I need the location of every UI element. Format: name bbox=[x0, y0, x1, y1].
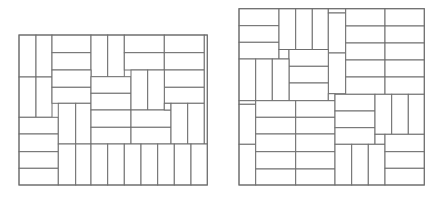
tile bbox=[58, 103, 75, 144]
tile bbox=[91, 110, 131, 127]
tile bbox=[346, 77, 385, 94]
tile bbox=[352, 144, 369, 185]
tile bbox=[392, 94, 409, 134]
tile bbox=[124, 53, 164, 70]
tile bbox=[335, 128, 375, 145]
tile bbox=[239, 101, 256, 105]
tile bbox=[52, 53, 91, 70]
tile bbox=[124, 144, 141, 185]
tile bbox=[368, 144, 385, 185]
left-tiling bbox=[19, 35, 207, 185]
tile bbox=[141, 144, 158, 185]
tile bbox=[272, 59, 289, 101]
tile bbox=[385, 152, 424, 169]
tile bbox=[124, 35, 164, 53]
tile bbox=[239, 144, 256, 185]
tiling-diagram bbox=[0, 0, 439, 198]
tile bbox=[174, 144, 191, 185]
tile bbox=[385, 134, 424, 151]
tile bbox=[58, 144, 75, 185]
tile bbox=[91, 127, 131, 144]
tile bbox=[131, 127, 171, 144]
tile bbox=[36, 35, 52, 77]
tile bbox=[279, 9, 296, 50]
tile bbox=[328, 94, 335, 101]
tile bbox=[346, 9, 385, 26]
tile bbox=[289, 50, 328, 67]
tile bbox=[328, 9, 345, 13]
tile bbox=[385, 43, 424, 60]
tile bbox=[191, 144, 207, 185]
tile bbox=[296, 101, 335, 118]
tile bbox=[91, 35, 108, 77]
tile bbox=[171, 103, 188, 144]
tile bbox=[239, 42, 279, 59]
tile bbox=[256, 117, 296, 134]
tile bbox=[256, 59, 273, 101]
tile bbox=[375, 94, 392, 134]
tile bbox=[385, 26, 424, 43]
tile bbox=[346, 26, 385, 43]
tile bbox=[36, 77, 52, 117]
tile bbox=[188, 103, 205, 144]
tile bbox=[335, 111, 375, 128]
tile bbox=[346, 43, 385, 60]
tile bbox=[385, 9, 424, 26]
tile bbox=[239, 9, 279, 26]
tile bbox=[19, 168, 58, 185]
tile bbox=[164, 87, 204, 103]
tile bbox=[131, 110, 171, 127]
tile bbox=[385, 60, 424, 77]
tile bbox=[335, 94, 375, 111]
tile bbox=[385, 77, 424, 94]
tile bbox=[408, 94, 424, 134]
tile bbox=[335, 144, 352, 185]
tile bbox=[289, 83, 328, 101]
tile bbox=[256, 134, 296, 152]
tile bbox=[164, 103, 171, 110]
tile bbox=[164, 53, 204, 70]
tile bbox=[108, 35, 125, 77]
tile bbox=[19, 77, 36, 117]
tile bbox=[239, 26, 279, 43]
tile bbox=[346, 60, 385, 77]
tile bbox=[91, 77, 131, 94]
tile bbox=[256, 152, 296, 169]
tile bbox=[256, 101, 296, 118]
tile bbox=[296, 152, 335, 169]
tile bbox=[52, 35, 91, 53]
tile bbox=[19, 35, 36, 77]
tile bbox=[19, 134, 58, 152]
tile bbox=[52, 70, 91, 87]
tile bbox=[385, 168, 424, 185]
tile bbox=[375, 134, 385, 144]
tile bbox=[296, 169, 335, 185]
tile bbox=[296, 117, 335, 134]
tile bbox=[279, 50, 289, 60]
tile bbox=[76, 144, 91, 185]
tile bbox=[19, 117, 58, 134]
tile bbox=[131, 70, 148, 110]
tile bbox=[164, 35, 204, 53]
tile bbox=[328, 13, 345, 53]
tile bbox=[91, 144, 108, 185]
tile bbox=[108, 144, 125, 185]
tile bbox=[239, 104, 256, 144]
right-tiling bbox=[239, 9, 424, 185]
tile bbox=[19, 152, 58, 169]
tile bbox=[158, 144, 175, 185]
tile bbox=[296, 9, 313, 50]
tile bbox=[312, 9, 328, 50]
tile bbox=[239, 59, 256, 101]
tile bbox=[148, 70, 165, 110]
tile bbox=[256, 169, 296, 185]
tile bbox=[289, 66, 328, 83]
tile bbox=[328, 53, 345, 94]
tile bbox=[76, 103, 91, 144]
tile bbox=[164, 70, 204, 87]
tile bbox=[296, 134, 335, 152]
tile bbox=[91, 93, 131, 110]
tile bbox=[52, 87, 91, 103]
